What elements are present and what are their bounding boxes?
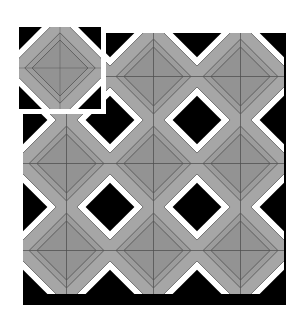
pattern-tile (19, 27, 101, 109)
grid-tile (197, 120, 284, 207)
single-tile-clip (19, 27, 101, 109)
grid-tile (110, 120, 197, 207)
pattern-tile (197, 33, 284, 120)
grid-tile (110, 207, 197, 294)
pattern-tile (23, 207, 110, 294)
pattern-tile (110, 33, 197, 120)
grid-tile (197, 33, 284, 120)
pattern-tile (110, 120, 197, 207)
pattern-tile (197, 207, 284, 294)
pattern-tile (197, 120, 284, 207)
grid-tile (23, 120, 110, 207)
pattern-tile (110, 207, 197, 294)
grid-tile (197, 207, 284, 294)
grid-tile (110, 33, 197, 120)
single-tile-inset-panel (14, 22, 106, 114)
grid-tile (23, 207, 110, 294)
figure-canvas (0, 0, 300, 320)
pattern-tile (23, 120, 110, 207)
